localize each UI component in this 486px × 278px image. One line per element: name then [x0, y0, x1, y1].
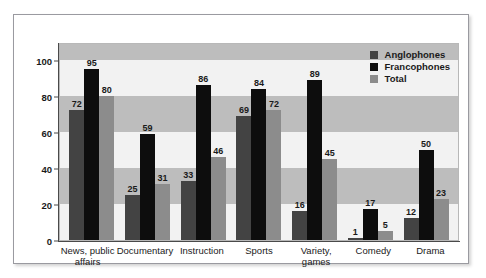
legend-label: Total	[385, 74, 407, 84]
bar[interactable]: 25	[125, 195, 140, 240]
x-axis-category-line: Variety,	[288, 245, 344, 256]
bar-value-label: 16	[295, 200, 305, 210]
bar[interactable]: 45	[322, 159, 337, 240]
x-axis-category-line: News, public	[60, 245, 116, 256]
bar[interactable]: 46	[211, 157, 226, 240]
x-axis-category-line: games	[288, 256, 344, 267]
bar-value-label: 12	[406, 207, 416, 217]
chart-frame: 7295802559313386466984721689451175125023…	[13, 14, 469, 264]
bar-group: 338646	[181, 44, 226, 240]
x-axis-category-label: Comedy	[345, 245, 401, 267]
bar[interactable]: 23	[434, 199, 449, 240]
bar-group: 255931	[125, 44, 170, 240]
bar-value-label: 23	[436, 188, 446, 198]
bar[interactable]: 86	[196, 85, 211, 240]
bar-group: 698472	[236, 44, 281, 240]
y-axis-tick-mark	[54, 205, 59, 206]
bar[interactable]: 72	[266, 110, 281, 240]
bar[interactable]: 69	[236, 116, 251, 240]
bar-slot: 80	[99, 44, 114, 240]
bar[interactable]: 31	[155, 184, 170, 240]
bar[interactable]: 89	[307, 80, 322, 240]
bar-slot: 72	[69, 44, 84, 240]
bar[interactable]: 5	[378, 231, 393, 240]
bar-value-label: 72	[72, 99, 82, 109]
x-axis-category-label: Drama	[402, 245, 458, 267]
bar-slot: 33	[181, 44, 196, 240]
bar-value-label: 45	[325, 148, 335, 158]
y-axis-tick-label: 80	[41, 92, 52, 103]
x-axis-category-line: affairs	[60, 256, 116, 267]
y-axis-tick-mark	[54, 61, 59, 62]
bar[interactable]: 84	[251, 89, 266, 240]
x-axis-category-label: Variety,games	[288, 245, 344, 267]
legend-item[interactable]: Total	[370, 74, 450, 84]
bar-value-label: 5	[383, 220, 388, 230]
bar-slot: 95	[84, 44, 99, 240]
bar-slot: 1	[348, 44, 363, 240]
bar-slot: 84	[251, 44, 266, 240]
bar[interactable]: 50	[419, 150, 434, 240]
bar[interactable]: 17	[363, 209, 378, 240]
x-axis-category-label: Documentary	[117, 245, 173, 267]
x-axis-category-line: Comedy	[345, 245, 401, 256]
x-axis-category-label: News, publicaffairs	[60, 245, 116, 267]
legend-swatch-icon	[370, 51, 378, 59]
y-axis-tick-mark	[54, 169, 59, 170]
bar-value-label: 72	[269, 99, 279, 109]
bar[interactable]: 59	[140, 134, 155, 240]
bar-slot: 89	[307, 44, 322, 240]
x-axis-category-label: Instruction	[174, 245, 230, 267]
x-axis-labels: News, publicaffairsDocumentaryInstructio…	[59, 245, 459, 267]
x-axis-category-label: Sports	[231, 245, 287, 267]
x-axis-line	[58, 241, 460, 242]
bar-group: 168945	[292, 44, 337, 240]
bar-value-label: 46	[213, 146, 223, 156]
chart-legend: AnglophonesFrancophonesTotal	[370, 50, 450, 84]
bar-value-label: 59	[143, 123, 153, 133]
bar-value-label: 1	[353, 227, 358, 237]
bar-slot: 59	[140, 44, 155, 240]
bar-value-label: 86	[198, 74, 208, 84]
y-axis-tick-mark	[54, 133, 59, 134]
y-axis-tick-mark	[54, 97, 59, 98]
legend-label: Francophones	[385, 62, 450, 72]
bar-group: 729580	[69, 44, 114, 240]
y-axis: 020406080100	[14, 43, 59, 241]
legend-label: Anglophones	[385, 50, 446, 60]
x-axis-category-line: Drama	[402, 245, 458, 256]
chart-figure: 7295802559313386466984721689451175125023…	[0, 0, 486, 278]
bar[interactable]: 95	[84, 69, 99, 240]
bar-value-label: 95	[87, 58, 97, 68]
x-axis-category-line: Sports	[231, 245, 287, 256]
y-axis-tick-mark	[54, 241, 59, 242]
bar-value-label: 31	[158, 173, 168, 183]
bar-slot: 69	[236, 44, 251, 240]
y-axis-tick-label: 0	[47, 236, 52, 247]
bar[interactable]: 1	[348, 238, 363, 240]
bar[interactable]: 12	[404, 218, 419, 240]
bar-slot: 16	[292, 44, 307, 240]
bar-value-label: 80	[102, 85, 112, 95]
bar-slot: 31	[155, 44, 170, 240]
bar-value-label: 69	[239, 105, 249, 115]
y-axis-tick-label: 60	[41, 128, 52, 139]
bar-value-label: 89	[310, 69, 320, 79]
bar[interactable]: 33	[181, 181, 196, 240]
bar-slot: 72	[266, 44, 281, 240]
bar[interactable]: 80	[99, 96, 114, 240]
bar-value-label: 17	[365, 198, 375, 208]
y-axis-tick-label: 40	[41, 164, 52, 175]
bar-slot: 46	[211, 44, 226, 240]
bar[interactable]: 72	[69, 110, 84, 240]
x-axis-category-line: Instruction	[174, 245, 230, 256]
cropped-caption	[0, 0, 486, 4]
bar-slot: 25	[125, 44, 140, 240]
bar-slot: 86	[196, 44, 211, 240]
legend-item[interactable]: Anglophones	[370, 50, 450, 60]
bar[interactable]: 16	[292, 211, 307, 240]
bar-value-label: 33	[183, 170, 193, 180]
x-axis-category-line: Documentary	[117, 245, 173, 256]
legend-item[interactable]: Francophones	[370, 62, 450, 72]
legend-swatch-icon	[370, 75, 378, 83]
